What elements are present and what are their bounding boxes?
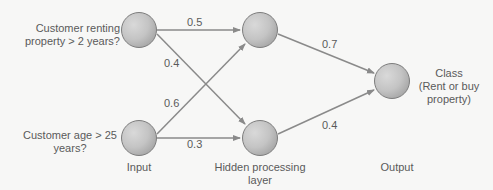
weight-input2-hidden2: 0.3 xyxy=(187,138,202,150)
input2-label-line1: Customer age > 25 xyxy=(18,129,122,142)
layer-label-hidden-line2: layer xyxy=(205,174,315,187)
layer-label-hidden: Hidden processing layer xyxy=(205,161,315,187)
output-label-line3: property) xyxy=(414,93,484,106)
input2-label: Customer age > 25 years? xyxy=(18,129,122,155)
layer-label-output: Output xyxy=(372,161,422,174)
input1-label-line1: Customer renting xyxy=(20,22,120,35)
weight-input1-hidden1: 0.5 xyxy=(187,16,202,28)
weight-input2-hidden1: 0.6 xyxy=(164,97,179,109)
output-label-line1: Class xyxy=(414,67,484,80)
input2-label-line2: years? xyxy=(18,142,122,155)
node-output xyxy=(375,64,410,99)
node-input2 xyxy=(122,121,157,156)
node-hidden1 xyxy=(243,13,278,48)
output-label: Class (Rent or buy property) xyxy=(414,67,484,106)
input1-label-line2: property > 2 years? xyxy=(20,35,120,48)
input1-label: Customer renting property > 2 years? xyxy=(20,22,120,48)
weight-hidden1-output: 0.7 xyxy=(322,38,337,50)
node-hidden2 xyxy=(243,121,278,156)
layer-label-hidden-line1: Hidden processing xyxy=(205,161,315,174)
output-label-line2: (Rent or buy xyxy=(414,80,484,93)
weight-input1-hidden2: 0.4 xyxy=(164,57,179,69)
edge-input1-hidden2 xyxy=(157,34,245,124)
node-input1 xyxy=(122,13,157,48)
weight-hidden2-output: 0.4 xyxy=(322,119,337,131)
layer-label-input: Input xyxy=(114,161,164,174)
